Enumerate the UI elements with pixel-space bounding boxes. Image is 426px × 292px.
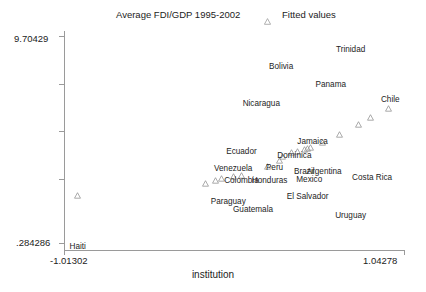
fitted-value-marker: [202, 180, 209, 187]
scatter-chart: Average FDI/GDP 1995-2002 Fitted values …: [0, 0, 426, 292]
point-label: Peru: [266, 163, 283, 172]
fitted-value-marker: [336, 131, 343, 138]
point-label: Uruguay: [335, 211, 366, 220]
point-label: Bolivia: [269, 62, 293, 71]
point-label: Honduras: [252, 176, 288, 185]
point-label: Ecuador: [226, 147, 257, 156]
point-label: Nicaragua: [243, 99, 280, 108]
fitted-value-marker: [385, 105, 392, 112]
point-label: Panama: [316, 80, 347, 89]
point-label: Venezuela: [214, 164, 252, 173]
point-label: Trinidad: [336, 45, 365, 54]
point-label: Dominica: [277, 151, 311, 160]
fitted-value-marker: [367, 114, 374, 121]
fitted-value-marker: [355, 121, 362, 128]
point-label: Chile: [381, 95, 400, 104]
plot-area: TrinidadBoliviaPanamaChileNicaraguaJamai…: [0, 0, 426, 292]
point-label: Guatemala: [233, 205, 273, 214]
point-label: Haiti: [70, 242, 86, 251]
point-label: Costa Rica: [352, 173, 392, 182]
fitted-value-marker: [74, 192, 81, 199]
fitted-value-marker: [212, 177, 219, 184]
point-label: Jamaica: [297, 137, 328, 146]
point-label: El Salvador: [287, 192, 329, 201]
point-label: Mexico: [296, 175, 322, 184]
